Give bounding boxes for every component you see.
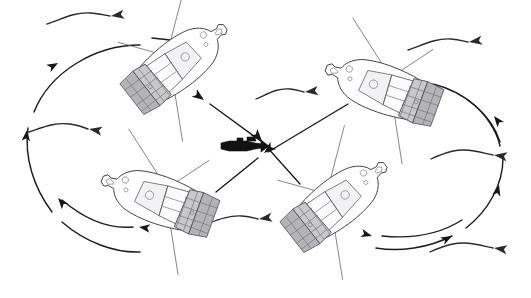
current-arrows <box>29 10 508 255</box>
vessel-bottom-left[interactable] <box>80 126 232 279</box>
vessel-top-right[interactable] <box>304 15 456 168</box>
vessel-top-left[interactable] <box>98 0 265 150</box>
current-arrow-5 <box>431 150 508 161</box>
track-from-bottom-right <box>266 146 300 184</box>
track-to-top-right <box>268 104 348 152</box>
current-arrow-7 <box>430 243 508 254</box>
current-arrow-3 <box>256 86 318 99</box>
current-arrow-1 <box>47 10 125 24</box>
loop-left-arrow-3 <box>55 195 69 209</box>
current-arrow-4 <box>408 36 483 50</box>
center-target[interactable] <box>221 137 269 152</box>
vessel-pattern-diagram <box>0 0 531 298</box>
track-from-bottom-left <box>216 158 258 192</box>
loop-right-arrow-3 <box>440 232 454 245</box>
loop-left-arrow-4 <box>138 223 150 233</box>
loop-left-arrow-1 <box>46 59 60 72</box>
diagram-canvas: Figure-Eight Trawler Search Pattern Four… <box>0 0 531 298</box>
current-arrow-2 <box>29 124 103 136</box>
loop-right-arrow-4 <box>360 229 373 240</box>
track-to-top-left-arrowhead <box>192 89 207 103</box>
